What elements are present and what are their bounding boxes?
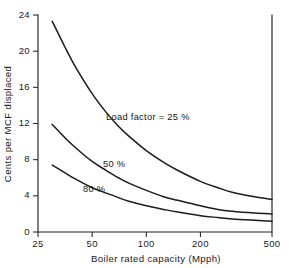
- curve-annotation: Load factor = 25 %: [106, 112, 190, 122]
- curve-annotation: 50 %: [103, 159, 125, 169]
- y-tick-label: 12: [19, 117, 30, 128]
- chart-figure: 04812162024 2550100200500 Load factor = …: [0, 0, 290, 268]
- curve-annotation: 80 %: [83, 184, 105, 194]
- x-tick-label: 200: [192, 238, 209, 249]
- y-tick-label: 24: [19, 9, 30, 20]
- y-tick-label: 4: [24, 189, 30, 200]
- x-tick-label: 25: [32, 238, 43, 249]
- chart-canvas: 04812162024 2550100200500 Load factor = …: [0, 0, 290, 268]
- y-tick-label: 0: [24, 226, 30, 237]
- x-tick-label: 100: [138, 238, 155, 249]
- x-tick-label: 50: [86, 238, 97, 249]
- y-tick-label: 16: [19, 81, 30, 92]
- x-axis-title: Boiler rated capacity (Mpph): [91, 253, 221, 264]
- y-tick-label: 8: [24, 153, 30, 164]
- y-axis-title: Cents per MCF displaced: [2, 66, 13, 182]
- chart-background: [0, 0, 290, 268]
- x-tick-label: 500: [263, 238, 280, 249]
- y-tick-label: 20: [19, 45, 30, 56]
